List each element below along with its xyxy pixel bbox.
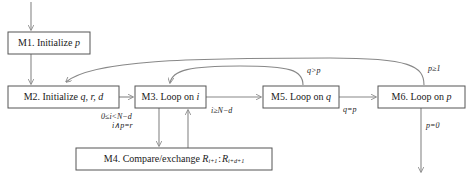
node-m6-label: M6. Loop on p <box>392 91 452 102</box>
edge-label-m3-to-m4-line1: 0≤i<N−d <box>101 112 133 121</box>
edge-label-m5-to-m6: q=p <box>343 105 356 114</box>
node-m2[interactable]: M2. Initialize q, r, d <box>8 86 119 108</box>
node-m4-label: M4. Compare/exchange Ri+1 : Ri+d+1 <box>104 153 245 164</box>
node-m5[interactable]: M5. Loop on q <box>263 86 339 108</box>
node-m1-label: M1. Initialize p <box>18 37 80 48</box>
edge-label-m6-to-m2: p≥1 <box>427 64 440 73</box>
node-m3[interactable]: M3. Loop on i <box>135 86 206 108</box>
edge-m5-to-m3-loopback <box>170 66 303 85</box>
edge-m6-to-m2-loopback <box>66 58 424 85</box>
node-m2-label: M2. Initialize q, r, d <box>24 91 105 102</box>
node-layer: M1. Initialize p M2. Initialize q, r, d … <box>8 32 465 170</box>
node-m4[interactable]: M4. Compare/exchange Ri+1 : Ri+d+1 <box>76 148 272 170</box>
edge-label-m5-to-m3: q>p <box>307 66 320 75</box>
flowchart-canvas: M1. Initialize p M2. Initialize q, r, d … <box>0 0 474 180</box>
edge-label-m3-to-m4-line2: i∧p=r <box>112 121 134 130</box>
node-m1[interactable]: M1. Initialize p <box>8 32 90 54</box>
edge-label-m6-exit: p=0 <box>425 121 439 130</box>
edge-label-m3-to-m5: i≥N−d <box>211 106 233 115</box>
node-m3-label: M3. Loop on i <box>142 91 200 102</box>
node-m6[interactable]: M6. Loop on p <box>378 86 465 108</box>
node-m5-label: M5. Loop on q <box>271 91 331 102</box>
